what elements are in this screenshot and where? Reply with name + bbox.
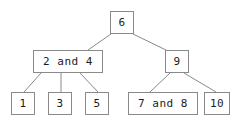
tree-edge <box>133 34 166 50</box>
tree-node-label: 3 <box>56 98 63 109</box>
tree-edge <box>184 73 216 92</box>
tree-node-leaf78[interactable]: 7 and 8 <box>128 92 198 115</box>
tree-node-leaf1[interactable]: 1 <box>11 92 35 115</box>
tree-node-right[interactable]: 9 <box>165 50 189 73</box>
tree-node-label: 10 <box>210 98 224 109</box>
tree-node-label: 6 <box>118 17 125 28</box>
tree-node-label: 7 and 8 <box>138 98 188 109</box>
tree-edge <box>24 73 41 92</box>
tree-node-root[interactable]: 6 <box>110 11 134 34</box>
tree-edge <box>88 34 111 50</box>
tree-edge <box>80 73 98 92</box>
tree-node-label: 9 <box>173 56 180 67</box>
tree-node-label: 1 <box>19 98 26 109</box>
tree-node-leaf5[interactable]: 5 <box>85 92 109 115</box>
tree-diagram: 62 and 491357 and 810 <box>0 0 242 124</box>
tree-edge <box>150 73 170 92</box>
tree-node-label: 5 <box>93 98 100 109</box>
tree-node-left[interactable]: 2 and 4 <box>33 50 103 73</box>
tree-node-leaf10[interactable]: 10 <box>204 92 230 115</box>
tree-node-leaf3[interactable]: 3 <box>48 92 72 115</box>
tree-node-label: 2 and 4 <box>43 56 93 67</box>
